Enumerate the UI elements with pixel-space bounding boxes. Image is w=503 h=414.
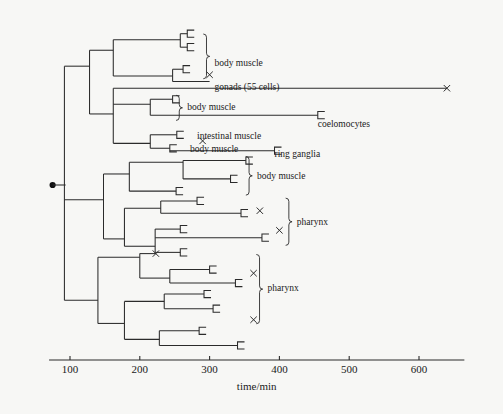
- axis-tick-label: 600: [411, 363, 428, 375]
- tissue-label: coelomocytes: [318, 119, 371, 129]
- tissue-label: pharynx: [297, 217, 328, 227]
- tissue-label: ring ganglia: [275, 149, 321, 159]
- axis-tick-label: 100: [62, 363, 79, 375]
- x-marker: [206, 72, 212, 78]
- group-brace: [176, 95, 182, 120]
- time-axis: 100200300400500600time/min: [49, 356, 464, 392]
- terminal-bracket: [262, 234, 269, 241]
- group-brace: [246, 157, 252, 196]
- group-brace: [203, 34, 209, 79]
- terminal-bracket: [318, 112, 325, 119]
- terminal-bracket: [197, 197, 204, 204]
- group-brace: [286, 198, 292, 245]
- terminal-bracket: [238, 342, 245, 349]
- x-marker: [276, 227, 282, 233]
- root-marker: [50, 182, 66, 188]
- terminal-bracket: [183, 66, 190, 73]
- tissue-label: body muscle: [257, 171, 305, 181]
- terminal-bracket: [210, 266, 217, 273]
- terminal-bracket: [187, 30, 194, 37]
- terminal-bracket: [177, 131, 184, 138]
- terminal-bracket: [231, 175, 238, 182]
- tissue-label: body muscle: [187, 102, 235, 112]
- axis-tick-label: 300: [201, 363, 218, 375]
- terminal-bracket: [213, 305, 220, 312]
- x-marker: [250, 317, 256, 323]
- terminal-bracket: [199, 327, 206, 334]
- terminal-bracket: [180, 249, 187, 256]
- terminal-bracket: [176, 188, 183, 195]
- terminal-bracket: [180, 226, 187, 233]
- x-marker: [257, 208, 263, 214]
- terminal-bracket: [187, 44, 194, 51]
- tissue-labels: body musclegonads (55 cells)body musclec…: [187, 58, 370, 293]
- terminal-bracket: [241, 210, 248, 217]
- lineage-figure: body musclegonads (55 cells)body musclec…: [0, 0, 503, 414]
- group-brace: [256, 255, 262, 324]
- terminal-brackets: [170, 30, 325, 349]
- lineage-tree-svg: body musclegonads (55 cells)body musclec…: [0, 0, 503, 414]
- tissue-label: body muscle: [190, 144, 238, 154]
- tree-branches: [64, 34, 447, 346]
- axis-title: time/min: [237, 380, 277, 392]
- terminal-bracket: [235, 279, 242, 286]
- axis-tick-label: 500: [341, 363, 358, 375]
- axis-tick-label: 200: [132, 363, 149, 375]
- axis-tick-label: 400: [271, 363, 288, 375]
- x-marker: [250, 270, 256, 276]
- tissue-label: body muscle: [214, 58, 262, 68]
- tissue-label: pharynx: [268, 283, 299, 293]
- tissue-label: gonads (55 cells): [214, 82, 279, 93]
- tissue-label: intestinal muscle: [197, 131, 261, 141]
- terminal-bracket: [204, 290, 211, 297]
